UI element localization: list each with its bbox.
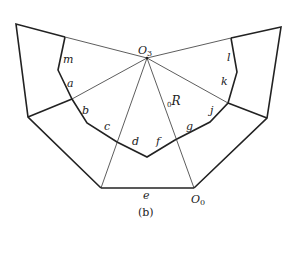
label-g: g xyxy=(186,120,193,133)
label-d: d xyxy=(132,135,139,148)
label-o0: O0 xyxy=(191,193,205,207)
label-e: e xyxy=(143,189,150,202)
label-b: b xyxy=(82,104,89,117)
right-fold-segment xyxy=(228,103,267,118)
label-f: f xyxy=(155,135,162,148)
label-j: j xyxy=(207,104,214,117)
label-r: 0R xyxy=(167,94,181,109)
label-l: l xyxy=(227,51,231,64)
label-c: c xyxy=(104,120,110,133)
label-o3: O3 xyxy=(138,44,152,58)
label-k: k xyxy=(221,75,228,88)
diagram-figure: O3 O0 0R m a b c d e f g j k l (b) xyxy=(0,0,298,257)
line-o3-topleft xyxy=(65,37,147,58)
line-o3-right xyxy=(147,58,228,103)
left-fold-segment xyxy=(28,99,72,117)
label-a: a xyxy=(67,77,74,90)
label-m: m xyxy=(63,53,73,66)
line-o3-topright xyxy=(147,38,231,58)
line-o3-left xyxy=(72,58,147,99)
figure-caption: (b) xyxy=(138,206,154,219)
radial-lines xyxy=(65,37,231,188)
